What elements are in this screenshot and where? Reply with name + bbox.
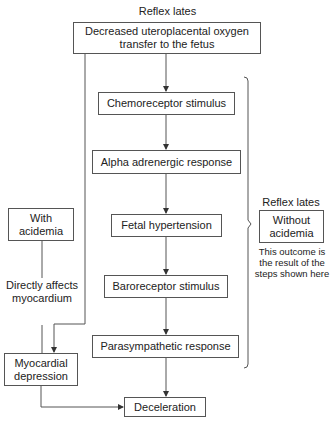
node-decreased-oxygen-transfer: Decreased uteroplacental oxygen transfer…	[73, 22, 261, 54]
top-label: Reflex lates	[120, 5, 215, 18]
node-chemoreceptor-stimulus: Chemoreceptor stimulus	[98, 92, 235, 115]
node-alpha-adrenergic-response: Alpha adrenergic response	[92, 150, 241, 174]
node-parasympathetic-response: Parasympathetic response	[92, 335, 239, 358]
node-fetal-hypertension: Fetal hypertension	[111, 214, 222, 237]
node-without-acidemia: Without acidemia	[259, 210, 324, 243]
label-directly-affects-myocardium: Directly affects myocardium	[4, 279, 80, 305]
node-baroreceptor-stimulus: Baroreceptor stimulus	[104, 275, 228, 298]
side-caption: This outcome is the result of the steps …	[253, 246, 331, 279]
node-myocardial-depression: Myocardial depression	[4, 353, 78, 386]
node-deceleration: Deceleration	[124, 397, 206, 417]
side-label-reflex-lates: Reflex lates	[255, 196, 327, 209]
node-with-acidemia: With acidemia	[8, 208, 74, 241]
